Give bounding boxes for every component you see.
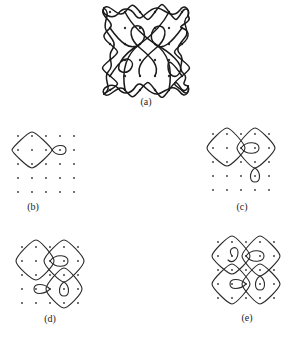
kolam-c-drawing bbox=[203, 126, 281, 198]
kolam-curve-a bbox=[103, 5, 190, 98]
figure-d bbox=[12, 238, 90, 310]
kolam-curve-c bbox=[207, 128, 275, 182]
label-d: (d) bbox=[35, 313, 65, 324]
figure-a bbox=[100, 2, 192, 98]
kolam-e-drawing bbox=[208, 234, 286, 306]
label-a: (a) bbox=[131, 96, 161, 107]
figure-c bbox=[203, 126, 281, 198]
kolam-d-drawing bbox=[12, 238, 90, 310]
figure-e bbox=[208, 234, 286, 306]
label-c: (c) bbox=[227, 201, 257, 212]
dot-grid-d bbox=[21, 246, 79, 304]
kolam-b-drawing bbox=[8, 128, 88, 200]
figure-b bbox=[8, 128, 88, 200]
label-b: (b) bbox=[18, 201, 48, 212]
kolam-a-drawing bbox=[100, 2, 192, 98]
label-e: (e) bbox=[232, 312, 262, 323]
dot-grid-a bbox=[109, 11, 183, 91]
kolam-curve-d bbox=[16, 240, 84, 308]
dot-grid-c bbox=[212, 133, 270, 191]
dot-grid-e bbox=[217, 241, 275, 299]
kolam-curve-b bbox=[12, 132, 66, 168]
